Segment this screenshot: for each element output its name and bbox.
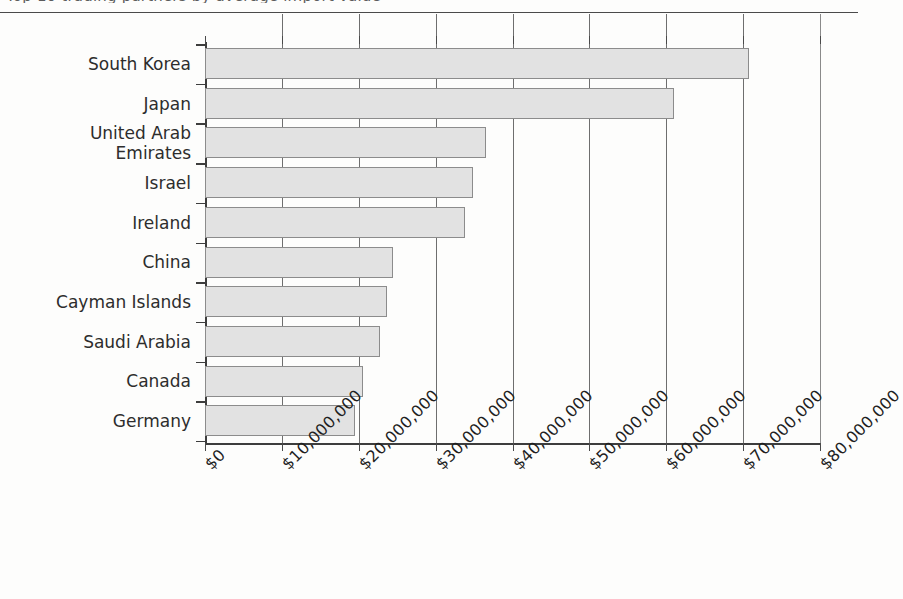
y-tick bbox=[196, 322, 205, 324]
bar-row: Saudi Arabia bbox=[0, 322, 858, 362]
y-axis-category-label: Germany bbox=[0, 411, 191, 431]
x-tick-top bbox=[282, 36, 283, 44]
y-axis-category-label: Saudi Arabia bbox=[0, 332, 191, 352]
chart-title-text: Top 10 trading partners by average impor… bbox=[0, 0, 858, 3]
bar bbox=[205, 48, 749, 79]
x-tick-bottom bbox=[513, 443, 514, 451]
x-tick-bottom bbox=[436, 443, 437, 451]
x-tick-bottom bbox=[589, 443, 590, 451]
bar-row: Japan bbox=[0, 84, 858, 124]
x-tick-bottom bbox=[666, 443, 667, 451]
x-tick-top bbox=[513, 36, 514, 44]
x-tick-top bbox=[205, 36, 206, 44]
bar-row: Cayman Islands bbox=[0, 282, 858, 322]
y-axis-category-label: South Korea bbox=[0, 54, 191, 74]
x-tick-bottom bbox=[820, 443, 821, 451]
x-tick-top bbox=[436, 36, 437, 44]
y-tick bbox=[196, 441, 205, 443]
header-divider bbox=[0, 12, 858, 13]
bar bbox=[205, 286, 387, 317]
y-tick bbox=[196, 203, 205, 205]
x-tick-top bbox=[666, 36, 667, 44]
y-tick bbox=[196, 123, 205, 125]
bar bbox=[205, 88, 674, 119]
bar-row: South Korea bbox=[0, 44, 858, 84]
x-tick-top bbox=[743, 36, 744, 44]
y-axis-category-label: China bbox=[0, 252, 191, 272]
y-tick bbox=[196, 44, 205, 46]
x-axis-tick-labels: $0$10,000,000$20,000,000$30,000,000$40,0… bbox=[0, 454, 858, 599]
y-axis-category-label: Israel bbox=[0, 173, 191, 193]
x-tick-bottom bbox=[743, 443, 744, 451]
y-tick bbox=[196, 243, 205, 245]
bar-row: Israel bbox=[0, 163, 858, 203]
y-axis-category-label: Japan bbox=[0, 94, 191, 114]
x-tick-bottom bbox=[205, 443, 206, 451]
y-axis-category-label: Canada bbox=[0, 371, 191, 391]
x-tick-top bbox=[359, 36, 360, 44]
y-tick bbox=[196, 84, 205, 86]
y-tick bbox=[196, 362, 205, 364]
bar-row: China bbox=[0, 243, 858, 283]
x-tick-top bbox=[589, 36, 590, 44]
y-tick bbox=[196, 282, 205, 284]
y-tick bbox=[196, 163, 205, 165]
bar bbox=[205, 326, 380, 357]
y-axis-category-label: Ireland bbox=[0, 213, 191, 233]
x-tick-bottom bbox=[282, 443, 283, 451]
bar bbox=[205, 207, 465, 238]
bar bbox=[205, 167, 473, 198]
y-axis-category-label: United Arab Emirates bbox=[0, 123, 191, 163]
bar bbox=[205, 247, 393, 278]
y-axis-category-label: Cayman Islands bbox=[0, 292, 191, 312]
x-tick-top bbox=[820, 36, 821, 44]
bar bbox=[205, 127, 486, 158]
x-tick-bottom bbox=[359, 443, 360, 451]
y-tick bbox=[196, 401, 205, 403]
chart-title-fragment: Top 10 trading partners by average impor… bbox=[0, 0, 858, 3]
bar-row: Ireland bbox=[0, 203, 858, 243]
bar-row: United Arab Emirates bbox=[0, 123, 858, 163]
bar bbox=[205, 366, 363, 397]
